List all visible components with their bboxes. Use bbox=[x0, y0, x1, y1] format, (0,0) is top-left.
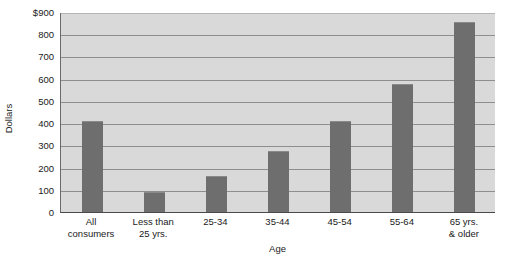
y-axis-title: Dollars bbox=[0, 88, 18, 148]
x-axis-title: Age bbox=[269, 243, 286, 254]
y-axis-tick-label: 500 bbox=[38, 97, 54, 107]
y-axis-tick-label: 200 bbox=[38, 164, 54, 174]
bar bbox=[144, 192, 165, 213]
x-axis-tick-label: 55-64 bbox=[390, 216, 414, 228]
bar bbox=[392, 84, 413, 213]
bar bbox=[454, 22, 475, 213]
x-axis-tick-labels: AllconsumersLess than25 yrs.25-3435-4445… bbox=[60, 216, 495, 246]
x-axis-tick-label: 35-44 bbox=[265, 216, 289, 228]
bar bbox=[330, 121, 351, 213]
x-axis-tick-label: Allconsumers bbox=[68, 216, 114, 239]
x-axis-tick-label: 65 yrs.& older bbox=[449, 216, 479, 239]
y-axis-tick-label: 600 bbox=[38, 75, 54, 85]
bar bbox=[206, 176, 227, 213]
gridline bbox=[61, 146, 495, 147]
gridline bbox=[61, 102, 495, 103]
plot-area bbox=[60, 13, 495, 213]
plot-top-edge bbox=[61, 13, 495, 14]
x-axis-tick-label: Less than25 yrs. bbox=[133, 216, 174, 239]
gridline bbox=[61, 80, 495, 81]
y-axis-tick-label: 400 bbox=[38, 119, 54, 129]
y-axis-title-text: Dollars bbox=[4, 103, 15, 133]
x-axis-tick-label: 45-54 bbox=[327, 216, 351, 228]
bar bbox=[268, 151, 289, 213]
y-axis-tick-label: 100 bbox=[38, 186, 54, 196]
gridline bbox=[61, 57, 495, 58]
gridline bbox=[61, 124, 495, 125]
y-axis-tick-label: 300 bbox=[38, 142, 54, 152]
y-axis-tick-labels: 0100200300400500600700800$900 bbox=[18, 13, 58, 213]
bar-chart: Dollars 0100200300400500600700800$900 Al… bbox=[0, 0, 513, 271]
bar bbox=[82, 121, 103, 213]
y-axis-tick-label: 800 bbox=[38, 30, 54, 40]
y-axis-tick-label: $900 bbox=[33, 8, 54, 18]
y-axis-tick-label: 700 bbox=[38, 53, 54, 63]
y-axis-tick-label: 0 bbox=[49, 208, 54, 218]
x-axis-tick-label: 25-34 bbox=[203, 216, 227, 228]
gridline bbox=[61, 35, 495, 36]
